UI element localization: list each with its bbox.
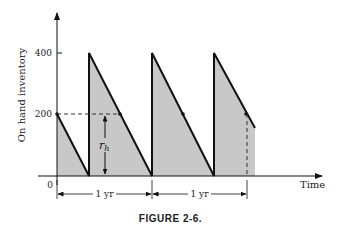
figure-caption: FIGURE 2-6. (0, 213, 341, 224)
period-dimension-2: 1 yr (153, 180, 247, 199)
svg-text:1 yr: 1 yr (191, 189, 210, 199)
y-axis-label: On hand inventory (16, 47, 27, 142)
inventory-sawtooth-diagram: rh 400 200 0 On hand inventory Time 1 yr… (0, 0, 341, 233)
origin-label: 0 (47, 180, 53, 190)
x-axis-label: Time (300, 179, 325, 190)
svg-text:1 yr: 1 yr (96, 189, 115, 199)
y-tick-400: 400 (35, 48, 52, 58)
period-dimension-1: 1 yr (57, 180, 152, 199)
y-tick-200: 200 (35, 109, 52, 119)
